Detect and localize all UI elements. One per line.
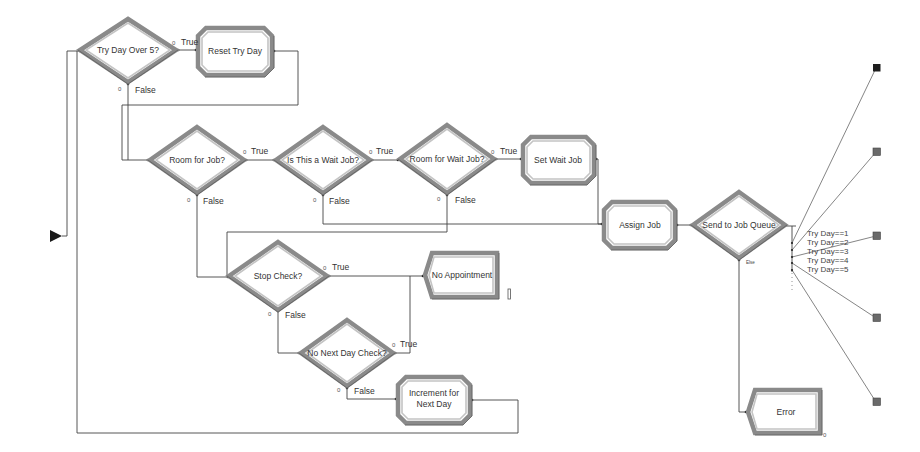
label-true: True [181,37,198,47]
port-marker: 0 [437,196,441,202]
decision-no-next-day-check[interactable]: No Next Day Check? [299,320,395,388]
label-false: False [354,386,375,396]
decision-label: Send to Job Queue [702,220,776,230]
process-label: Reset Try Day [208,46,263,56]
process-label: Set Wait Job [534,155,582,165]
exit-square-2[interactable] [873,148,881,156]
process-increment-for-next-day[interactable]: Increment for Next Day [398,377,472,425]
port-marker: 0 [268,311,272,317]
terminator-error[interactable]: Error [748,390,822,435]
port-marker: 0 [392,342,396,348]
decision-label: Room for Job? [169,155,225,165]
no-appointment-counter-marker [508,289,511,299]
port-marker: 0 [243,149,247,155]
label-true: True [251,146,268,156]
decision-room-for-wait-job[interactable]: Room for Wait Job? [398,125,496,195]
process-set-wait-job[interactable]: Set Wait Job [523,137,596,185]
process-label-line2: Next Day [417,399,453,409]
port-marker: 0 [172,40,176,46]
process-reset-try-day[interactable]: Reset Try Day [198,28,274,77]
label-false: False [329,196,350,206]
port-marker: 0 [369,149,373,155]
label-true: True [400,339,417,349]
port-marker: 0 [491,149,495,155]
condition-label: Try Day==4 [807,256,849,265]
condition-label: Try Day==2 [807,238,849,247]
port-marker: 0 [313,197,317,203]
port-marker: 0 [337,387,341,393]
condition-label: Try Day==3 [807,247,849,256]
label-false: False [285,310,306,320]
exit-square-4[interactable] [873,314,881,322]
connector-queue-else [739,258,748,412]
label-true: True [332,262,349,272]
port-marker: 0 [118,86,122,92]
decision-label: Is This a Wait Job? [287,155,359,165]
label-true: True [500,146,517,156]
decision-is-this-a-wait-job[interactable]: Is This a Wait Job? [274,127,372,195]
connection-dots [79,49,793,414]
error-counter: 0 [823,432,827,438]
queue-exits [873,64,881,406]
process-label: Assign Job [619,220,661,230]
exit-square-5[interactable] [873,398,881,406]
decision-try-day-over-5[interactable]: Try Day Over 5? [78,19,178,84]
process-label-line1: Increment for [409,388,459,398]
process-assign-job[interactable]: Assign Job [604,202,677,250]
label-false: False [135,85,156,95]
label-else: Else [746,260,755,265]
port-marker: 0 [187,197,191,203]
label-true: True [376,146,393,156]
connector-exit-1 [792,68,876,243]
label-false: False [203,196,224,206]
decision-room-for-job[interactable]: Room for Job? [148,127,246,195]
decision-label: Try Day Over 5? [97,45,159,55]
entry-arrow-icon[interactable] [50,230,62,242]
connector-exit-5 [792,270,876,402]
port-marker: 0 [323,265,327,271]
exit-square-1[interactable] [873,64,881,72]
exit-square-3[interactable] [873,232,881,240]
label-false: False [455,195,476,205]
condition-label: Try Day==1 [807,229,849,238]
decision-label: No Next Day Check? [307,348,387,358]
terminator-label: No Appointment [432,270,493,280]
condition-label: Try Day==5 [807,265,849,274]
decision-label: Stop Check? [254,271,303,281]
terminator-label: Error [777,407,796,417]
terminator-no-appointment[interactable]: No Appointment [425,253,499,299]
decision-label: Room for Wait Job? [410,154,485,164]
decision-stop-check[interactable]: Stop Check? [227,242,329,312]
decision-send-to-job-queue[interactable]: Send to Job Queue [691,192,787,260]
flowchart-canvas: Try Day Over 5? Room for Job? Is This a … [0,0,920,452]
